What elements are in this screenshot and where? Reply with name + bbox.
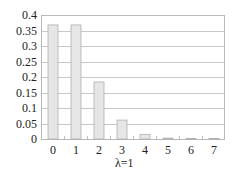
x-tick-label: 1 [66,144,86,156]
x-tick-label: 4 [135,144,155,156]
y-tick-label: 0.35 [16,25,37,37]
y-tick-label: 0.2 [22,71,37,83]
x-tick-label: 3 [112,144,132,156]
y-tick-label: 0 [31,133,37,145]
bar [94,82,104,139]
bar [186,139,196,140]
bar [209,139,219,140]
y-tick-label: 0.3 [22,40,37,52]
y-tick-label: 0.25 [16,56,37,68]
y-tick-label: 0.15 [16,87,37,99]
x-tick-label: 2 [89,144,109,156]
poisson-bar-chart: 00.050.10.150.20.250.30.350.4 01234567 λ… [0,0,237,189]
x-tick-label: 6 [181,144,201,156]
x-tick-label: 0 [43,144,63,156]
bar [48,25,58,139]
bar [140,134,150,139]
x-tick-label: 5 [158,144,178,156]
x-axis-label: λ=1 [115,157,134,169]
x-tick-label: 7 [204,144,224,156]
bar [117,120,127,139]
bar [71,25,81,139]
bar [163,138,173,139]
y-tick-label: 0.4 [22,9,37,21]
y-tick-label: 0.1 [22,102,37,114]
y-tick-label: 0.05 [16,118,37,130]
